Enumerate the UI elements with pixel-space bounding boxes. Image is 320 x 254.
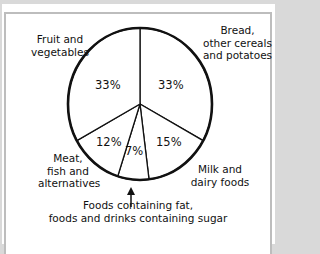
pct-fruit: 33% (95, 78, 121, 92)
label-fats: Foods containing fat, foods and drinks c… (38, 199, 238, 224)
pct-meat: 12% (96, 135, 122, 149)
pct-bread: 33% (158, 78, 184, 92)
label-milk: Milk and dairy foods (185, 163, 255, 188)
label-meat: Meat, fish and alternatives (38, 152, 98, 190)
label-bread: Bread, other cereals and potatoes (200, 24, 275, 62)
pct-fats: 7% (125, 144, 143, 158)
label-fruit: Fruit and vegetables (30, 33, 90, 58)
pct-milk: 15% (156, 135, 182, 149)
